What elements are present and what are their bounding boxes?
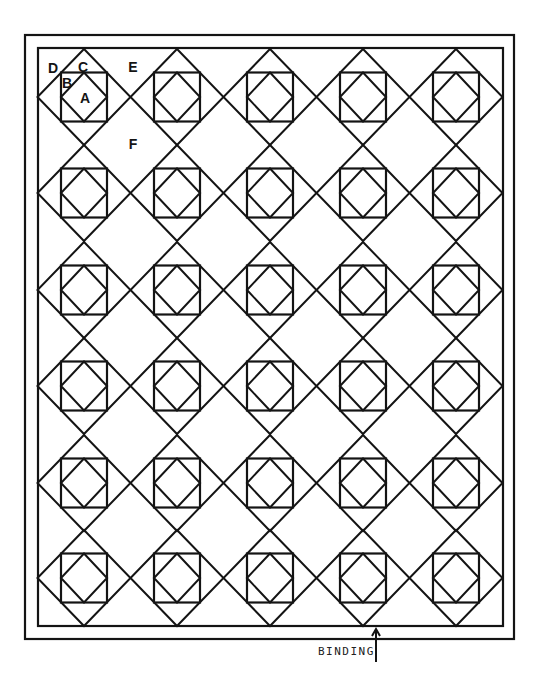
inner-diamond <box>247 169 293 218</box>
quilt-block <box>317 242 410 338</box>
outer-diamond <box>410 435 503 531</box>
block-square <box>61 266 107 315</box>
block-square <box>154 169 200 218</box>
block-square <box>61 362 107 411</box>
quilt-block <box>317 338 410 434</box>
quilt-block <box>131 49 224 145</box>
outer-diamond <box>38 435 131 531</box>
outer-diamond <box>224 435 317 531</box>
outer-diamond <box>224 145 317 241</box>
inner-diamond <box>340 266 386 315</box>
quilt-block <box>317 49 410 145</box>
inner-diamond <box>433 362 479 411</box>
inner-diamond <box>154 73 200 122</box>
inner-diamond <box>340 169 386 218</box>
inner-diamond <box>61 459 107 508</box>
inner-diamond <box>247 362 293 411</box>
inner-diamond <box>247 73 293 122</box>
block-square <box>154 459 200 508</box>
piece-label-a: A <box>80 90 90 106</box>
block-square <box>340 459 386 508</box>
block-square <box>61 554 107 603</box>
outer-diamond <box>38 242 131 338</box>
outer-diamond <box>131 49 224 145</box>
outer-diamond <box>410 49 503 145</box>
outer-diamond <box>131 242 224 338</box>
inner-diamond <box>154 266 200 315</box>
quilt-blocks <box>38 49 503 626</box>
quilt-block <box>38 338 131 434</box>
outer-diamond <box>224 49 317 145</box>
quilt-block <box>38 242 131 338</box>
inner-diamond <box>247 266 293 315</box>
block-square <box>247 73 293 122</box>
quilt-block <box>38 435 131 531</box>
quilt-block <box>131 338 224 434</box>
block-square <box>433 459 479 508</box>
block-square <box>340 554 386 603</box>
quilt-block <box>410 530 503 626</box>
block-square <box>340 73 386 122</box>
quilt-block <box>224 49 317 145</box>
block-square <box>433 362 479 411</box>
inner-diamond <box>61 169 107 218</box>
inner-diamond <box>154 169 200 218</box>
block-square <box>154 362 200 411</box>
block-square <box>154 554 200 603</box>
quilt-block <box>317 530 410 626</box>
piece-label-f: F <box>129 136 138 152</box>
block-square <box>433 73 479 122</box>
inner-diamond <box>61 554 107 603</box>
outer-diamond <box>317 338 410 434</box>
block-square <box>340 362 386 411</box>
piece-label-b: B <box>62 75 72 91</box>
quilt-block <box>224 242 317 338</box>
inner-diamond <box>340 459 386 508</box>
quilt-block <box>410 242 503 338</box>
block-square <box>247 266 293 315</box>
block-square <box>154 266 200 315</box>
piece-label-d: D <box>48 60 58 76</box>
inner-diamond <box>61 266 107 315</box>
block-square <box>433 266 479 315</box>
outer-diamond <box>131 435 224 531</box>
inner-diamond <box>433 169 479 218</box>
block-square <box>247 554 293 603</box>
quilt-block <box>410 338 503 434</box>
outer-diamond <box>38 145 131 241</box>
block-square <box>247 169 293 218</box>
inner-diamond <box>433 459 479 508</box>
quilt-block <box>224 338 317 434</box>
outer-diamond <box>131 338 224 434</box>
inner-diamond <box>61 362 107 411</box>
block-square <box>154 73 200 122</box>
quilt-block <box>38 530 131 626</box>
quilt-block <box>224 435 317 531</box>
quilt-block <box>317 145 410 241</box>
outer-diamond <box>131 530 224 626</box>
block-square <box>61 169 107 218</box>
outer-diamond <box>410 530 503 626</box>
outer-diamond <box>317 49 410 145</box>
quilt-block <box>224 530 317 626</box>
block-square <box>340 169 386 218</box>
quilt-block <box>131 435 224 531</box>
quilt-block <box>131 242 224 338</box>
quilt-diagram: DCEBAF <box>0 0 543 681</box>
outer-diamond <box>38 530 131 626</box>
inner-diamond <box>247 459 293 508</box>
quilt-block <box>131 145 224 241</box>
binding-label: BINDING <box>318 645 375 658</box>
outer-diamond <box>410 242 503 338</box>
inner-diamond <box>340 362 386 411</box>
inner-diamond <box>340 554 386 603</box>
quilt-block <box>317 435 410 531</box>
inner-diamond <box>247 554 293 603</box>
inner-diamond <box>154 459 200 508</box>
inner-diamond <box>433 266 479 315</box>
quilt-block <box>38 145 131 241</box>
block-square <box>340 266 386 315</box>
outer-diamond <box>317 435 410 531</box>
quilt-block <box>131 530 224 626</box>
block-square <box>247 362 293 411</box>
